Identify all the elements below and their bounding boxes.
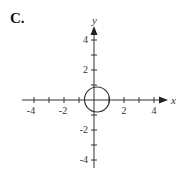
x-axis-label: x bbox=[170, 94, 176, 106]
x-tick-label: -2 bbox=[59, 105, 67, 116]
coordinate-plane: -4 -2 2 4 4 2 -2 -4 x y bbox=[0, 0, 184, 187]
x-tick-label: 4 bbox=[152, 105, 157, 116]
x-tick-label: 2 bbox=[122, 105, 127, 116]
y-tick-label: 4 bbox=[83, 34, 88, 45]
y-tick-label: 2 bbox=[83, 64, 88, 75]
y-tick-label: -4 bbox=[80, 154, 88, 165]
x-axis-arrow-icon bbox=[159, 97, 168, 104]
x-tick-label: -4 bbox=[27, 105, 35, 116]
y-axis-arrow-icon bbox=[91, 26, 98, 35]
y-tick-label: -2 bbox=[80, 124, 88, 135]
y-axis-label: y bbox=[91, 14, 97, 26]
